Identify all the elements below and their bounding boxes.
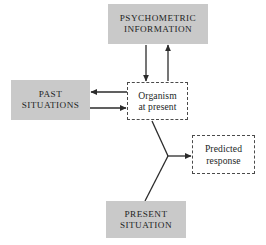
node-predicted-response: Predicted response: [192, 135, 255, 174]
node-label: PAST SITUATIONS: [19, 89, 83, 111]
edge-present-to-junction: [145, 156, 168, 201]
edge-organism-to-junction: [152, 121, 168, 156]
node-label: PRESENT SITUATION: [117, 209, 175, 231]
node-present-situation: PRESENT SITUATION: [106, 201, 186, 238]
node-label: Organism at present: [135, 90, 179, 113]
node-label: PSYCHOMETRIC INFORMATION: [117, 13, 199, 35]
node-psychometric-information: PSYCHOMETRIC INFORMATION: [108, 4, 208, 44]
node-organism-at-present: Organism at present: [127, 82, 188, 120]
node-past-situations: PAST SITUATIONS: [11, 80, 90, 120]
diagram-canvas: PSYCHOMETRIC INFORMATION PAST SITUATIONS…: [0, 0, 266, 245]
node-label: Predicted response: [202, 143, 245, 166]
